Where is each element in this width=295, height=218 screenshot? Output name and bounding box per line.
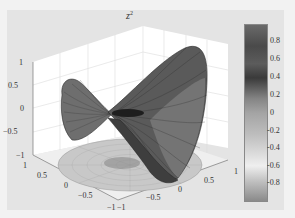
colorbar-tick: 0.4 xyxy=(270,72,280,81)
saddle-center xyxy=(112,109,144,117)
svg-text:−1: −1 xyxy=(107,203,116,212)
colorbar-tick: 0.8 xyxy=(270,36,280,45)
colorbar-tick: 0.2 xyxy=(270,90,280,99)
svg-text:−0.5: −0.5 xyxy=(146,193,161,202)
z-tick: 0 xyxy=(20,104,24,113)
svg-text:0.5: 0.5 xyxy=(204,176,214,185)
svg-text:1: 1 xyxy=(23,161,27,170)
svg-text:−1: −1 xyxy=(117,203,126,212)
chart-title: z2 xyxy=(126,10,133,21)
z-tick: −0.5 xyxy=(3,127,18,136)
colorbar-tick: -0.4 xyxy=(267,143,280,152)
colorbar-tick: 0.6 xyxy=(270,54,280,63)
z-tick: 0.5 xyxy=(8,81,18,90)
svg-text:−0.5: −0.5 xyxy=(78,191,93,200)
colorbar-tick: -0.6 xyxy=(267,161,280,170)
colorbar-tick: 0 xyxy=(270,108,274,117)
svg-text:0: 0 xyxy=(178,185,182,194)
colorbar-tick: -0.2 xyxy=(267,126,280,135)
svg-text:0.5: 0.5 xyxy=(37,171,47,180)
colorbar-tick: -0.8 xyxy=(267,178,280,187)
z-axis: 1 0.5 0 −0.5 −1 xyxy=(3,58,25,160)
colorbar xyxy=(244,24,268,202)
svg-text:1: 1 xyxy=(234,167,238,176)
svg-text:0: 0 xyxy=(64,181,68,190)
z-tick: −1 xyxy=(16,151,25,160)
z-tick: 1 xyxy=(19,58,23,67)
